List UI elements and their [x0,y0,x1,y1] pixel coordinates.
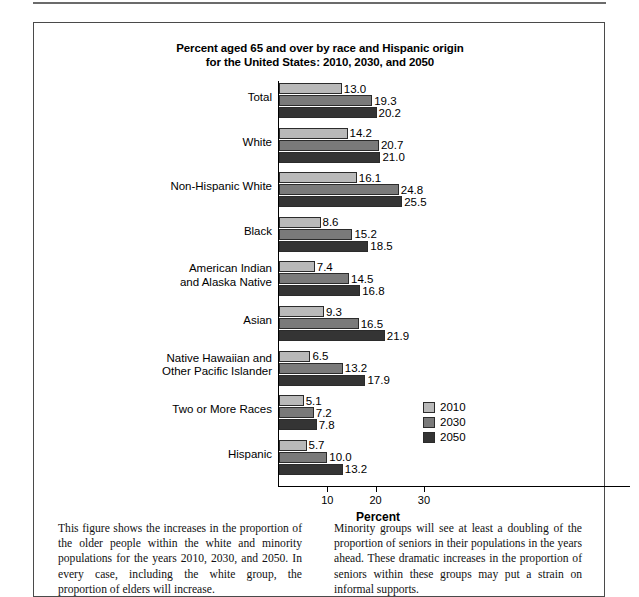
bar-value-label: 6.5 [312,350,328,362]
bar-series-stack: 5.17.27.8 [279,395,317,431]
bar-series-stack: 5.710.013.2 [279,440,343,476]
bar-value-label: 7.8 [319,419,335,431]
category-label: Hispanic [52,448,272,462]
bar: 6.5 [279,351,310,362]
category-label: White [52,136,272,150]
bar-value-label: 16.8 [362,285,384,297]
bar: 13.0 [279,83,342,94]
chart-plot-area: 102030 Total13.019.320.2White14.220.721.… [34,23,606,493]
bar: 16.5 [279,318,359,329]
bar: 9.3 [279,306,324,317]
legend-item: 2050 [423,430,466,444]
bar: 8.6 [279,217,321,228]
x-axis-tick-label: 10 [312,494,342,506]
bar-series-stack: 16.124.825.5 [279,172,402,208]
bar-value-label: 15.2 [354,228,376,240]
bar: 21.9 [279,330,385,341]
category-label-line: Two or More Races [52,403,272,417]
bar-value-label: 10.0 [329,451,351,463]
category-label-line: Asian [52,314,272,328]
bar: 18.5 [279,241,368,252]
x-axis-tick [424,487,425,492]
bar: 20.2 [279,107,377,118]
bar-value-label: 13.2 [345,362,367,374]
category-label-line: Other Pacific Islander [52,365,272,379]
bar: 7.8 [279,419,317,430]
category-label: Two or More Races [52,403,272,417]
bar-value-label: 14.5 [351,273,373,285]
bar-series-stack: 14.220.721.0 [279,128,380,164]
x-axis-tick [327,487,328,492]
category-label-line: White [52,136,272,150]
legend-item: 2010 [423,400,466,414]
bar-value-label: 7.2 [316,407,332,419]
bar-value-label: 9.3 [326,306,342,318]
bar-value-label: 16.5 [361,318,383,330]
bar-value-label: 21.0 [382,151,404,163]
bar: 20.7 [279,140,379,151]
bar: 21.0 [279,152,380,163]
bar: 10.0 [279,452,327,463]
category-label: American Indianand Alaska Native [52,262,272,289]
caption-column-left: This figure shows the increases in the p… [34,521,320,597]
bar: 7.4 [279,261,315,272]
page-top-rule [33,2,606,4]
value-axis-line [278,486,630,487]
bar-value-label: 13.0 [344,83,366,95]
bar: 25.5 [279,196,402,207]
bar: 13.2 [279,363,343,374]
bar-series-stack: 8.615.218.5 [279,217,368,253]
figure-caption: This figure shows the increases in the p… [34,521,606,597]
category-label-line: Total [52,91,272,105]
bar-value-label: 8.6 [323,216,339,228]
legend-swatch-2050 [423,432,435,443]
bar-value-label: 14.2 [350,127,372,139]
bar-value-label: 21.9 [387,330,409,342]
bar-value-label: 16.1 [359,172,381,184]
bar: 15.2 [279,229,352,240]
category-label-line: and Alaska Native [52,276,272,290]
bar-value-label: 20.2 [379,107,401,119]
x-axis-tick-label: 20 [361,494,391,506]
bar-value-label: 25.5 [404,196,426,208]
legend-label-2010: 2010 [440,401,466,413]
legend-swatch-2030 [423,417,435,428]
x-axis-tick [376,487,377,492]
bar: 13.2 [279,464,343,475]
bar-series-stack: 7.414.516.8 [279,261,360,297]
caption-text-left: This figure shows the increases in the p… [58,521,302,597]
bar-value-label: 13.2 [345,463,367,475]
x-axis-tick-label: 30 [409,494,439,506]
bar: 14.5 [279,273,349,284]
bar-series-stack: 13.019.320.2 [279,83,377,119]
category-label-line: Black [52,225,272,239]
bar: 5.1 [279,395,304,406]
caption-text-right: Minority groups will see at least a doub… [334,521,582,597]
bar-value-label: 24.8 [401,184,423,196]
bar-value-label: 19.3 [374,95,396,107]
category-label: Asian [52,314,272,328]
bar-value-label: 17.9 [367,374,389,386]
bar: 17.9 [279,375,365,386]
legend-swatch-2010 [423,402,435,413]
bar-value-label: 5.1 [306,395,322,407]
category-label-line: Non-Hispanic White [52,180,272,194]
bar: 5.7 [279,440,307,451]
bar: 14.2 [279,128,348,139]
category-label-line: Hispanic [52,448,272,462]
caption-column-right: Minority groups will see at least a doub… [320,521,606,597]
bar-value-label: 18.5 [370,240,392,252]
category-label-line: American Indian [52,262,272,276]
bar-series-stack: 6.513.217.9 [279,351,365,387]
category-label: Non-Hispanic White [52,180,272,194]
bar-value-label: 7.4 [317,261,333,273]
bar: 24.8 [279,184,399,195]
bar: 19.3 [279,95,372,106]
legend-label-2030: 2030 [440,416,466,428]
category-label: Black [52,225,272,239]
legend-item: 2030 [423,415,466,429]
bar-value-label: 20.7 [381,139,403,151]
bar-series-stack: 9.316.521.9 [279,306,385,342]
bar: 16.1 [279,172,357,183]
